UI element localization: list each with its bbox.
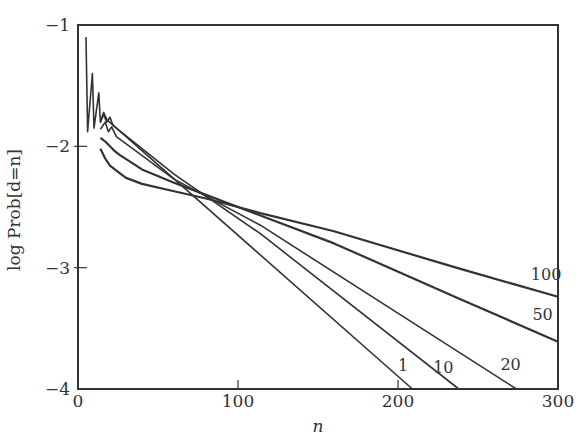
chart: 0100200300−1−2−3−4 1102050100 n log Prob… [0, 0, 587, 445]
plot-frame [78, 25, 558, 389]
x-tick-label: 100 [222, 391, 254, 411]
y-tick-label: −1 [45, 15, 70, 35]
x-axis-label: n [313, 416, 324, 436]
series-lines [86, 37, 558, 389]
series-label-1: 1 [398, 356, 408, 375]
y-tick-label: −2 [45, 136, 70, 156]
series-label-50: 50 [532, 305, 552, 324]
axis-ticks: 0100200300−1−2−3−4 [45, 15, 574, 411]
series-label-100: 100 [531, 265, 562, 284]
series-line-1 [86, 37, 412, 389]
x-tick-label: 0 [73, 391, 84, 411]
series-line-20 [100, 122, 516, 389]
series-line-50 [100, 138, 558, 342]
series-label-20: 20 [500, 355, 520, 374]
y-tick-label: −3 [45, 258, 70, 278]
y-tick-label: −4 [45, 379, 70, 399]
y-axis-label: log Prob[d=n] [4, 149, 24, 271]
x-tick-label: 200 [382, 391, 414, 411]
x-tick-label: 300 [542, 391, 574, 411]
series-label-10: 10 [433, 358, 453, 377]
